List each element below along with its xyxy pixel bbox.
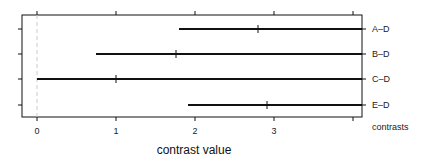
interval-a-d [179, 25, 362, 33]
bottom-axis-ticks [37, 117, 353, 121]
interval-b-d [96, 50, 362, 58]
x-tick-label-2: 2 [192, 126, 197, 136]
row-label-b-d: B–D [372, 49, 390, 59]
interval-c-d [37, 75, 362, 83]
x-axis-label: contrast value [157, 143, 232, 157]
contrast-interval-chart: A–D B–D C–D E–D contrasts 0 1 2 3 contra… [0, 0, 424, 160]
x-tick-label-1: 1 [113, 126, 118, 136]
y-axis-caption: contrasts [372, 122, 409, 132]
interval-e-d [188, 101, 362, 109]
x-tick-label-3: 3 [271, 126, 276, 136]
right-axis-ticks [362, 29, 366, 105]
x-tick-label-0: 0 [34, 126, 39, 136]
row-label-e-d: E–D [372, 100, 390, 110]
row-label-c-d: C–D [372, 74, 391, 84]
left-axis-ticks [18, 29, 22, 105]
plot-frame [22, 15, 362, 117]
top-axis-ticks [37, 11, 353, 15]
row-label-a-d: A–D [372, 24, 390, 34]
